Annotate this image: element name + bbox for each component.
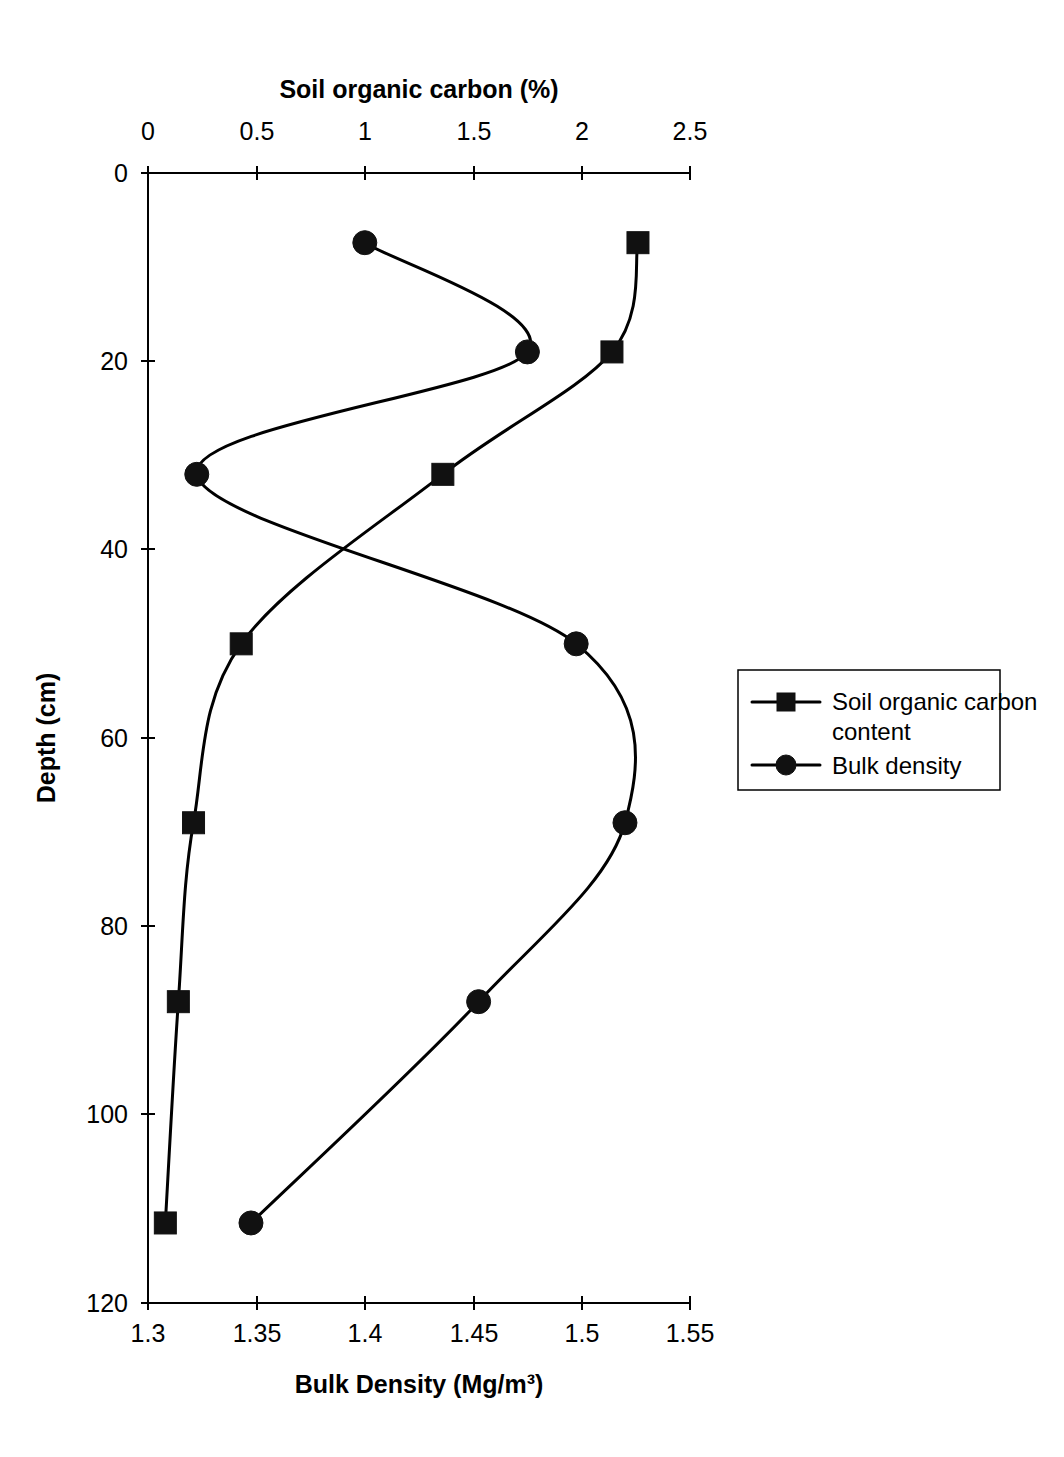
bottom-tick-label-1: 1.35 [233,1319,282,1347]
top-tick-label-4: 2 [575,117,589,145]
data-point-circle [185,462,209,486]
data-point-square [154,1212,176,1234]
legend-entry-bulk-density[interactable]: Bulk density [752,752,961,779]
depth-axis: 0 20 40 60 80 100 120 Depth (cm) [32,159,155,1317]
bottom-tick-label-2: 1.4 [348,1319,383,1347]
data-point-square [230,633,252,655]
top-axis-title: Soil organic carbon (%) [279,75,558,103]
depth-tick-label-4: 80 [100,912,128,940]
data-point-circle [613,811,637,835]
data-point-square [183,812,205,834]
data-point-circle [353,231,377,255]
top-tick-label-2: 1 [358,117,372,145]
bottom-tick-label-4: 1.5 [565,1319,600,1347]
bottom-tick-label-0: 1.3 [131,1319,166,1347]
legend: Soil organic carbon content Bulk density [738,670,1037,790]
series-line-soil-organic-carbon [165,243,638,1223]
series-soil-organic-carbon [154,232,649,1234]
depth-tick-label-6: 120 [86,1289,128,1317]
bottom-tick-label-3: 1.45 [450,1319,499,1347]
bottom-axis: 1.3 1.35 1.4 1.45 1.5 1.55 Bulk Density … [131,1296,715,1398]
legend-label-soil-organic-carbon-line1: Soil organic carbon [832,688,1037,715]
depth-tick-label-0: 0 [114,159,128,187]
bottom-axis-title: Bulk Density (Mg/m³) [295,1370,544,1398]
top-tick-label-5: 2.5 [673,117,708,145]
top-tick-label-3: 1.5 [457,117,492,145]
circle-marker-icon [776,755,796,775]
chart-canvas: 0 0.5 1 1.5 2 2.5 Soil organic carbon (%… [0,0,1064,1457]
data-point-circle [564,632,588,656]
data-point-square [167,991,189,1013]
square-marker-icon [777,693,795,711]
top-tick-label-0: 0 [141,117,155,145]
data-point-square [432,463,454,485]
bottom-tick-label-5: 1.55 [666,1319,715,1347]
data-point-square [601,341,623,363]
data-point-circle [467,990,491,1014]
depth-axis-title: Depth (cm) [32,673,60,804]
legend-entry-soil-organic-carbon[interactable]: Soil organic carbon content [752,688,1037,745]
depth-tick-label-3: 60 [100,724,128,752]
data-point-circle [515,340,539,364]
soil-profile-chart-figure: 0 0.5 1 1.5 2 2.5 Soil organic carbon (%… [0,0,1064,1457]
data-point-square [627,232,649,254]
legend-label-soil-organic-carbon-line2: content [832,718,911,745]
depth-tick-label-5: 100 [86,1100,128,1128]
top-axis: 0 0.5 1 1.5 2 2.5 Soil organic carbon (%… [141,75,707,180]
series-bulk-density [185,231,637,1235]
data-point-circle [239,1211,263,1235]
top-tick-label-1: 0.5 [240,117,275,145]
series-markers-soil-organic-carbon [154,232,649,1234]
depth-tick-label-1: 20 [100,347,128,375]
series-markers-bulk-density [185,231,637,1235]
legend-label-bulk-density: Bulk density [832,752,961,779]
depth-tick-label-2: 40 [100,535,128,563]
